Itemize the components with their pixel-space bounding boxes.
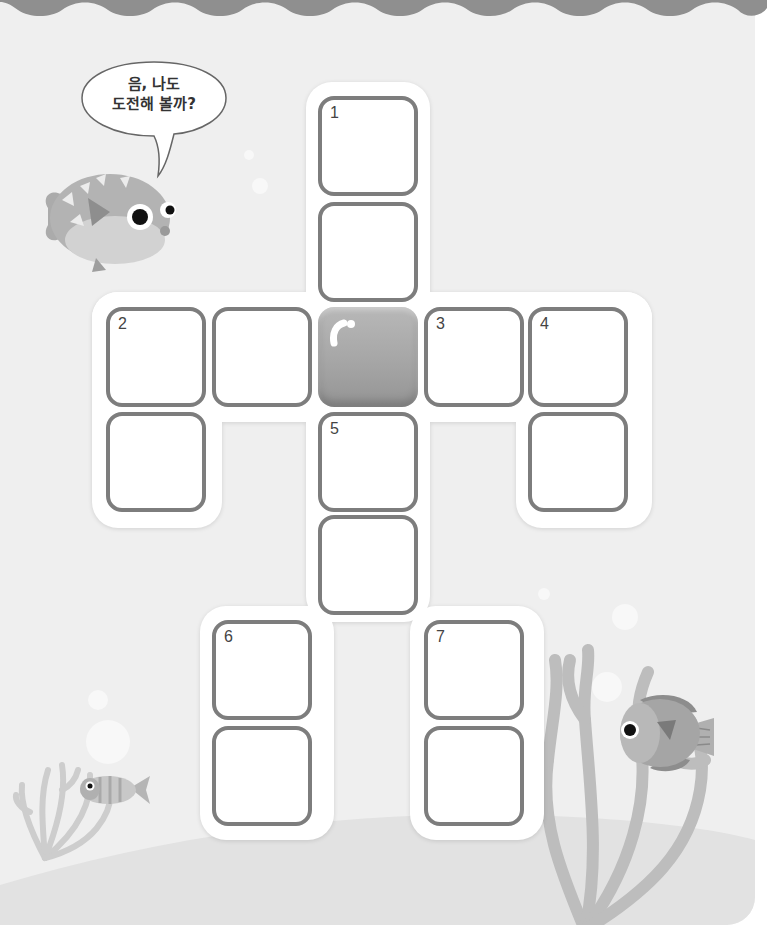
clue-number: 4 [540, 315, 549, 333]
crossword-cell[interactable]: 4 [528, 307, 628, 407]
shine-icon [328, 319, 356, 347]
crossword-cell[interactable] [212, 726, 312, 826]
clue-number: 3 [436, 315, 445, 333]
clue-number: 6 [224, 628, 233, 646]
clue-number: 2 [118, 315, 127, 333]
crossword-blocked-cell [318, 307, 418, 407]
crossword-cell[interactable]: 5 [318, 412, 418, 512]
crossword-cell[interactable]: 6 [212, 620, 312, 720]
crossword-cell[interactable] [528, 412, 628, 512]
clue-number: 7 [436, 628, 445, 646]
crossword-cell[interactable]: 7 [424, 620, 524, 720]
crossword-cell[interactable] [424, 726, 524, 826]
crossword-cell[interactable]: 1 [318, 96, 418, 196]
clue-number: 1 [330, 104, 339, 122]
clue-number: 5 [330, 420, 339, 438]
crossword-cell[interactable] [106, 412, 206, 512]
crossword-cell[interactable] [318, 515, 418, 615]
crossword-cell[interactable] [212, 307, 312, 407]
crossword-cell[interactable]: 3 [424, 307, 524, 407]
crossword-cell[interactable] [318, 202, 418, 302]
crossword-cell[interactable]: 2 [106, 307, 206, 407]
